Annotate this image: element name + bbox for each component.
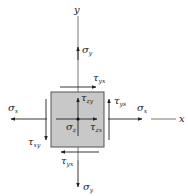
sigma-x-left-label: σx: [8, 102, 19, 114]
tau-yx-top-label: τyx: [93, 72, 106, 85]
tau-xy-label: τxy: [28, 136, 41, 149]
y-axis-label: y: [73, 4, 80, 15]
sigma-x-right-label: σx: [137, 102, 148, 114]
stress-element-diagram: y x σy τyx τzy τys σx σx σz τzx τxy τyx …: [0, 0, 188, 196]
tau-yx-bottom-label: τyx: [61, 155, 74, 168]
sigma-y-bottom-label: σy: [83, 181, 94, 194]
center-point: [76, 117, 79, 120]
tau-ys-label: τys: [114, 95, 126, 108]
sigma-y-top-label: σy: [82, 44, 93, 57]
x-axis-label: x: [179, 113, 185, 124]
